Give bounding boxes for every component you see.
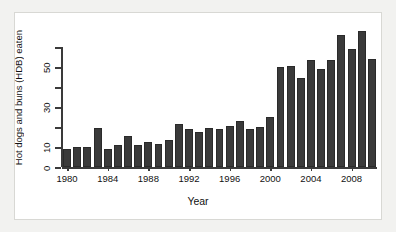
- x-tick-label: 2008: [341, 173, 362, 184]
- bar: [256, 127, 264, 167]
- bar: [124, 136, 132, 167]
- x-axis-line: [62, 167, 377, 169]
- bar: [266, 117, 274, 167]
- bar: [277, 67, 285, 167]
- bar: [368, 59, 376, 167]
- bar: [155, 144, 163, 168]
- y-axis-tick: [55, 47, 61, 49]
- bar: [287, 66, 295, 167]
- bar: [246, 129, 254, 167]
- x-tick-label: 1984: [97, 173, 118, 184]
- x-tick-mark: [189, 167, 191, 171]
- y-axis-tick: [55, 87, 61, 89]
- bar: [216, 129, 224, 167]
- y-axis-tick: 0: [55, 167, 61, 169]
- bar: [236, 121, 244, 167]
- x-tick-mark: [270, 167, 272, 171]
- bar-series: [62, 27, 377, 167]
- y-tick-mark: [55, 107, 61, 109]
- bar: [83, 147, 91, 168]
- y-axis-title-text: Hot dogs and buns (HDB) eaten: [13, 30, 24, 165]
- bar: [175, 124, 183, 167]
- bar: [134, 145, 142, 168]
- y-axis-tick: [55, 127, 61, 129]
- y-tick-label: 0: [39, 160, 53, 176]
- x-tick-label: 2004: [300, 173, 321, 184]
- x-tick-mark: [352, 167, 354, 171]
- x-tick-label: 1992: [178, 173, 199, 184]
- x-tick-label: 1988: [138, 173, 159, 184]
- x-tick-label: 1980: [57, 173, 78, 184]
- bar: [317, 69, 325, 167]
- bar: [337, 35, 345, 167]
- x-tick-mark: [108, 167, 110, 171]
- y-tick-label: 30: [39, 100, 53, 116]
- x-tick-mark: [230, 167, 232, 171]
- y-tick-label: 50: [39, 60, 53, 76]
- y-tick-mark: [55, 147, 61, 149]
- y-tick-mark: [55, 87, 61, 89]
- x-tick-mark: [148, 167, 150, 171]
- bar: [358, 31, 366, 167]
- x-axis-title-text: Year: [187, 195, 208, 207]
- bar: [63, 149, 71, 167]
- x-axis-title: Year: [15, 195, 381, 207]
- bar: [297, 78, 305, 167]
- chart-figure: Hot dogs and buns (HDB) eaten 0103050 19…: [14, 12, 382, 220]
- plot-area: Hot dogs and buns (HDB) eaten 0103050 19…: [15, 13, 381, 219]
- bar: [144, 142, 152, 167]
- bar: [307, 60, 315, 167]
- bar: [195, 132, 203, 167]
- x-tick-label: 2000: [260, 173, 281, 184]
- bar: [348, 49, 356, 167]
- x-tick-label: 1996: [219, 173, 240, 184]
- bar: [73, 147, 81, 168]
- y-tick-mark: [55, 67, 61, 69]
- y-axis-tick: 50: [55, 67, 61, 69]
- bar: [226, 126, 234, 167]
- y-axis-title: Hot dogs and buns (HDB) eaten: [11, 13, 25, 183]
- y-tick-mark: [55, 167, 61, 169]
- x-tick-mark: [67, 167, 69, 171]
- x-tick-mark: [311, 167, 313, 171]
- bar: [185, 129, 193, 167]
- bar: [114, 145, 122, 167]
- bar: [94, 128, 102, 167]
- y-tick-label: 10: [39, 140, 53, 156]
- y-tick-mark: [55, 47, 61, 49]
- bar: [205, 128, 213, 167]
- bar: [104, 149, 112, 167]
- y-axis-tick: 30: [55, 107, 61, 109]
- y-tick-mark: [55, 127, 61, 129]
- bar: [327, 60, 335, 168]
- bar: [165, 140, 173, 168]
- y-axis-tick: 10: [55, 147, 61, 149]
